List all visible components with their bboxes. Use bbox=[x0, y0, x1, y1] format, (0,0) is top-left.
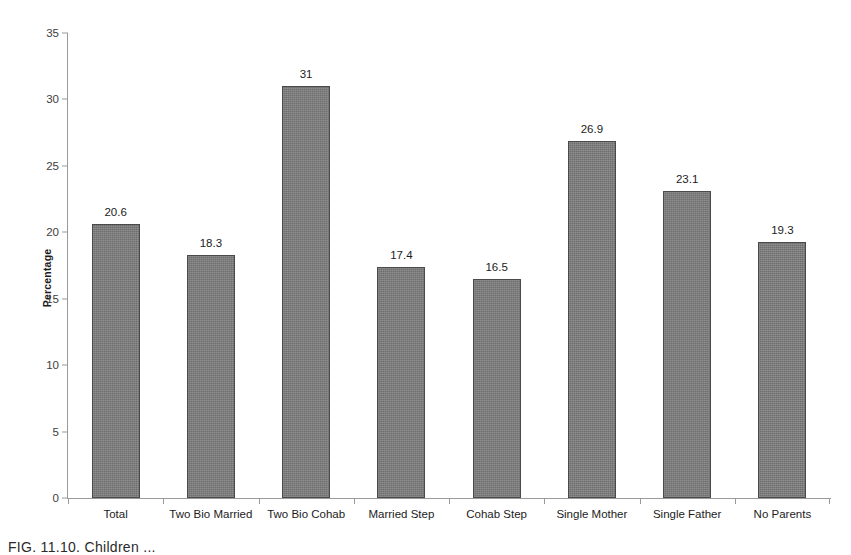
bar[interactable] bbox=[377, 267, 425, 498]
x-axis-tick-mark bbox=[163, 498, 164, 504]
bar[interactable] bbox=[663, 191, 711, 498]
x-axis-tick-mark bbox=[829, 498, 830, 504]
bar-group: 19.3 bbox=[735, 33, 830, 498]
bar-series: 20.618.33117.416.526.923.119.3 bbox=[68, 33, 830, 498]
x-axis-category-label: Total bbox=[68, 508, 163, 520]
x-axis-tick-mark bbox=[544, 498, 545, 504]
x-axis-category-label: Two Bio Married bbox=[163, 508, 258, 520]
bar[interactable] bbox=[568, 141, 616, 498]
bar[interactable] bbox=[758, 242, 806, 498]
bar-group: 18.3 bbox=[163, 33, 258, 498]
x-axis-tick-mark bbox=[449, 498, 450, 504]
bar-group: 20.6 bbox=[68, 33, 163, 498]
x-axis-category-label: No Parents bbox=[735, 508, 830, 520]
x-axis-tick-mark bbox=[640, 498, 641, 504]
x-axis-tick-mark bbox=[354, 498, 355, 504]
x-axis-category-label: Married Step bbox=[354, 508, 449, 520]
bar-value-label: 31 bbox=[259, 68, 354, 80]
bar[interactable] bbox=[187, 255, 235, 498]
bar-value-label: 26.9 bbox=[544, 123, 639, 135]
bar[interactable] bbox=[282, 86, 330, 498]
figure-caption: FIG. 11.10. Children ... bbox=[8, 539, 843, 555]
plot-area: 05101520253035 20.618.33117.416.526.923.… bbox=[68, 33, 830, 498]
x-axis-tick-mark bbox=[259, 498, 260, 504]
bar-value-label: 16.5 bbox=[449, 261, 544, 273]
bar-group: 16.5 bbox=[449, 33, 544, 498]
bar-group: 31 bbox=[259, 33, 354, 498]
bar-value-label: 18.3 bbox=[163, 237, 258, 249]
x-axis-category-label: Single Mother bbox=[544, 508, 639, 520]
x-axis-labels: TotalTwo Bio MarriedTwo Bio CohabMarried… bbox=[68, 508, 830, 520]
bar-group: 26.9 bbox=[544, 33, 639, 498]
bar-group: 23.1 bbox=[640, 33, 735, 498]
bar[interactable] bbox=[92, 224, 140, 498]
x-axis-tick-mark bbox=[735, 498, 736, 504]
bar-value-label: 17.4 bbox=[354, 249, 449, 261]
x-axis-tick-mark bbox=[68, 498, 69, 504]
x-axis-category-label: Two Bio Cohab bbox=[259, 508, 354, 520]
x-axis-category-label: Single Father bbox=[640, 508, 735, 520]
bar-value-label: 19.3 bbox=[735, 224, 830, 236]
figure-bar-chart: Percentage 05101520253035 20.618.33117.4… bbox=[0, 0, 851, 555]
bar-group: 17.4 bbox=[354, 33, 449, 498]
bar-value-label: 20.6 bbox=[68, 206, 163, 218]
bar-value-label: 23.1 bbox=[640, 173, 735, 185]
x-axis-category-label: Cohab Step bbox=[449, 508, 544, 520]
bar[interactable] bbox=[473, 279, 521, 498]
